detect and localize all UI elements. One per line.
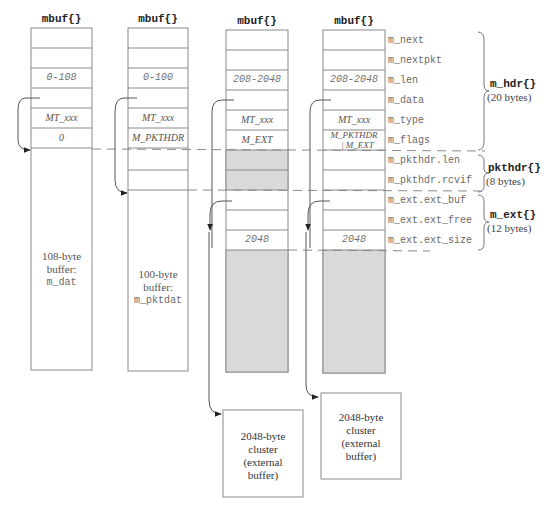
mbuf-4-ext-size: 2048: [323, 234, 385, 245]
field-m-pkthdr-rcvif: m_pkthdr.rcvif: [388, 175, 472, 186]
mbuf-3-type: MT_xxx: [226, 114, 288, 125]
mbuf-3-len: 208-2048: [226, 74, 288, 85]
mbuf-1-type: MT_xxx: [31, 112, 92, 123]
mbuf-1-len: 0-108: [31, 72, 92, 83]
buffer-text: buffer:: [31, 263, 92, 276]
mbuf-1-buffer-label: 108-byte buffer: m_dat: [31, 250, 92, 289]
cluster-size-text: 2048-byte: [223, 430, 303, 443]
group-pkthdr-size: (8 bytes): [486, 175, 525, 187]
mbuf-2-flags: M_PKTHDR: [128, 132, 188, 143]
mbuf-1-flags: 0: [31, 132, 92, 143]
field-m-len: m_len: [388, 75, 418, 86]
field-m-ext-ext-buf: m_ext.ext_buf: [388, 195, 466, 206]
buffer-text: buffer:: [128, 281, 188, 294]
field-m-type: m_type: [388, 115, 424, 126]
mbuf-2-type: MT_xxx: [128, 112, 188, 123]
mbuf-4-type: MT_xxx: [323, 114, 385, 125]
cluster-text: cluster: [223, 443, 303, 456]
cluster-1-label: 2048-byte cluster (external buffer): [223, 430, 303, 482]
cluster-pointer-arrow-2: [306, 232, 318, 397]
mbuf-3-ext-size: 2048: [226, 234, 288, 245]
field-m-nextpkt: m_nextpkt: [388, 55, 442, 66]
group-m-hdr-size: (20 bytes): [487, 91, 531, 103]
mbuf-4-len: 208-2048: [323, 74, 385, 85]
group-pkthdr-name: pkthdr{}: [488, 162, 541, 174]
cluster-pointer-arrow-1: [209, 232, 221, 414]
group-m-ext-size: (12 bytes): [487, 222, 531, 234]
cluster-2-label: 2048-byte cluster (external buffer): [321, 411, 401, 463]
field-m-next: m_next: [388, 35, 424, 46]
buffer-field-name: m_dat: [31, 276, 92, 289]
buffer-size-text: 108-byte: [31, 250, 92, 263]
mbuf-4-header: mbuf{}: [323, 15, 385, 27]
mbuf-2-len: 0-100: [128, 72, 188, 83]
mbuf-1-header: mbuf{}: [31, 13, 92, 25]
mbuf-4-flags-line1: M_PKTHDR: [323, 130, 385, 140]
field-m-flags: m_flags: [388, 135, 430, 146]
buffer-field-name: m_pktdat: [128, 294, 188, 307]
braces: [478, 32, 489, 250]
field-m-ext-ext-free: m_ext.ext_free: [388, 215, 472, 226]
mbuf-4-flags-line2: | M_EXT: [330, 140, 385, 150]
field-m-pkthdr-len: m_pkthdr.len: [388, 155, 460, 166]
field-m-data: m_data: [388, 95, 424, 106]
cluster-buffer-text: buffer): [223, 469, 303, 482]
mbuf-2-header: mbuf{}: [128, 13, 188, 25]
field-m-ext-ext-size: m_ext.ext_size: [388, 235, 472, 246]
mbuf-3-header: mbuf{}: [226, 15, 288, 27]
group-m-ext-name: m_ext{}: [490, 209, 536, 221]
mbuf-2-buffer-label: 100-byte buffer: m_pktdat: [128, 268, 188, 307]
group-m-hdr-name: m_hdr{}: [490, 78, 536, 90]
cluster-size-text: 2048-byte: [321, 411, 401, 424]
cluster-external-text: (external: [321, 437, 401, 450]
cluster-external-text: (external: [223, 456, 303, 469]
cluster-text: cluster: [321, 424, 401, 437]
mbuf-3-flags: M_EXT: [226, 134, 288, 145]
mbuf-diagram: mbuf{} mbuf{} mbuf{} mbuf{} 0-108 MT_xxx…: [0, 0, 548, 514]
cluster-buffer-text: buffer): [321, 450, 401, 463]
buffer-size-text: 100-byte: [128, 268, 188, 281]
